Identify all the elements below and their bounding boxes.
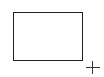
crosshair-vertical-line <box>92 61 93 74</box>
drawing-canvas[interactable] <box>0 0 104 77</box>
crosshair-horizontal-line <box>86 67 100 68</box>
rectangle-shape[interactable] <box>13 12 83 61</box>
